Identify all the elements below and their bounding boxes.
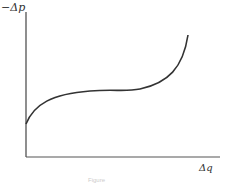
plot-area (0, 0, 225, 185)
data-curve (26, 35, 188, 124)
y-axis-label: −Δp (1, 1, 25, 14)
x-axis-label: Δq (199, 162, 213, 173)
figure-caption: Figure (88, 177, 105, 183)
chart-figure: −Δp Δq Figure (0, 0, 225, 185)
